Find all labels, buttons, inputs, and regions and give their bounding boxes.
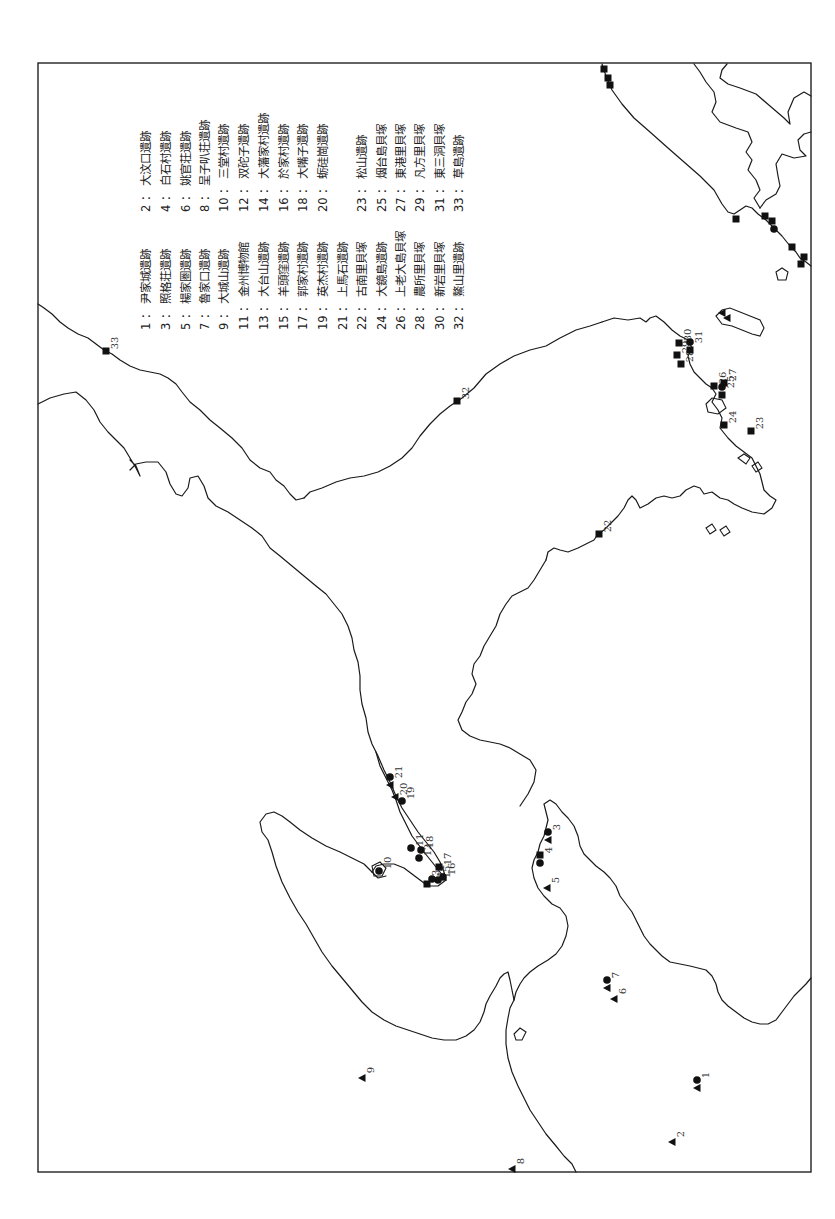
site-label-4: 4 [543, 847, 554, 853]
legend-entry-25: 25 ： 烟台島貝塚 [375, 123, 389, 212]
site-markers: 1234567891011121314151617181920212223242… [103, 66, 808, 1174]
site-label-18: 18 [424, 836, 435, 849]
site-label-31: 31 [693, 331, 704, 344]
site-label-17: 17 [442, 853, 453, 866]
coastline-liaodong-west [130, 462, 446, 880]
legend-entry-19: 19 ： 英杰村遺跡 [316, 241, 330, 330]
legend-entry-11: 11 ： 金州博物館 [237, 242, 251, 330]
site-label-2: 2 [675, 1131, 686, 1137]
legend-entry-9: 9 ： 大城山遺跡 [217, 248, 231, 330]
site-label-20: 20 [398, 783, 409, 796]
legend-entry-31: 31 ： 東三洞貝塚 [433, 123, 447, 212]
coastline-bohai-northwest [38, 392, 140, 476]
coastlines [38, 64, 811, 1172]
triangle-marker-icon [668, 1138, 676, 1146]
legend-entry-33: 33 ： 草島遺跡 [452, 134, 466, 212]
triangle-marker-icon [603, 984, 611, 992]
site-label-27: 27 [727, 369, 738, 382]
site-23: 23 [748, 417, 766, 435]
coastline-northeast [602, 64, 811, 266]
coastline-bohai-inner [260, 812, 514, 1040]
square-marker-icon [601, 66, 608, 73]
legend-entry-15: 15 ： 羊頭窪遺跡 [277, 241, 291, 330]
legend-entry-8: 8 ： 呈子叭荘遺跡 [198, 119, 212, 212]
site-1: 1 [693, 1072, 711, 1092]
island-cluster-4 [706, 524, 716, 534]
archaeological-site-map: 1 ： 尹家城遺跡2 ： 大汶口遺跡3 ： 照格荘遺跡4 ： 白石村遺跡5 ： … [0, 0, 835, 1219]
coastline-shandong-west [506, 1000, 576, 1172]
triangle-marker-icon [544, 836, 552, 844]
legend-entry-18: 18 ： 大嘴子遺跡 [296, 123, 310, 212]
legend-entry-4: 4 ： 白石村遺跡 [159, 130, 173, 212]
square-marker-icon [789, 244, 796, 251]
site-label-32: 32 [460, 387, 471, 400]
site-label-6: 6 [617, 988, 628, 994]
triangle-marker-icon [610, 995, 618, 1003]
coastline-bohai-north [38, 304, 304, 500]
circle-marker-icon [770, 225, 778, 233]
legend-entry-13: 13 ： 大台山遺跡 [257, 241, 271, 330]
legend-entry-32: 32 ： 鰲山里遺跡 [452, 241, 466, 330]
legend-entry-2: 2 ： 大汶口遺跡 [139, 130, 153, 212]
circle-marker-icon [536, 859, 544, 867]
coastline-shandong-north [514, 800, 811, 1024]
site-label-5: 5 [550, 877, 561, 883]
site-label-23: 23 [754, 417, 765, 430]
map-frame [38, 63, 811, 1172]
legend-entry-26: 26 ： 上老大島貝塚 [394, 230, 408, 330]
site-label-33: 33 [109, 337, 120, 350]
legend-entry-7: 7 ： 魯家口遺跡 [198, 248, 212, 330]
legend-entry-28: 28 ： 農所里貝塚 [413, 241, 427, 330]
site-5: 5 [543, 877, 561, 892]
site-label-3: 3 [551, 824, 562, 830]
legend-entry-17: 17 ： 郭家村遺跡 [296, 241, 310, 330]
square-marker-icon [801, 254, 808, 261]
square-marker-icon [719, 392, 726, 399]
legend-entry-3: 3 ： 照格荘遺跡 [159, 248, 173, 330]
legend-entry-24: 24 ： 大鏡島遺跡 [375, 241, 389, 330]
triangle-marker-icon [358, 1074, 366, 1082]
site-8: 8 [508, 1158, 526, 1173]
site-label-21: 21 [393, 766, 404, 779]
coastline-northeast-inland [694, 64, 760, 208]
site-label-10: 10 [382, 857, 393, 870]
square-marker-icon [762, 213, 769, 220]
legend: 1 ： 尹家城遺跡2 ： 大汶口遺跡3 ： 照格荘遺跡4 ： 白石村遺跡5 ： … [139, 112, 466, 330]
site-label-22: 22 [602, 520, 613, 533]
legend-entry-23: 23 ： 松山遺跡 [355, 134, 369, 212]
square-marker-icon [733, 216, 740, 223]
triangle-marker-icon [693, 1084, 701, 1092]
island-small-east [776, 268, 788, 280]
island-bohai-strait [514, 1028, 526, 1040]
legend-entry-30: 30 ： 新岩里貝塚 [433, 241, 447, 330]
site-9: 9 [358, 1067, 376, 1082]
square-marker-icon [798, 261, 805, 268]
legend-entry-14: 14 ： 大藩家村遺跡 [257, 112, 271, 212]
legend-entry-1: 1 ： 尹家城遺跡 [139, 248, 153, 330]
legend-entry-16: 16 ： 於家村遺跡 [277, 123, 291, 212]
site-2: 2 [668, 1131, 686, 1146]
legend-entry-27: 27 ： 東港里貝塚 [394, 123, 408, 212]
coastline-liaodong-east [304, 322, 602, 498]
site-22: 22 [596, 520, 614, 538]
coastline-northeast-bay [720, 64, 811, 124]
legend-entry-22: 22 ： 古南里貝塚 [355, 241, 369, 330]
island-cluster-5 [720, 526, 730, 536]
site-32: 32 [454, 387, 472, 405]
coastline-korea-west [546, 316, 776, 560]
legend-entry-12: 12 ： 双砣子遺跡 [237, 123, 251, 212]
square-marker-icon [769, 218, 776, 225]
site-24: 24 [721, 411, 739, 429]
legend-entry-29: 29 ： 凡方里貝塚 [413, 123, 427, 212]
site-label-24: 24 [727, 411, 738, 424]
site-label-1: 1 [700, 1072, 711, 1078]
legend-entry-21: 21 ： 上馬石遺跡 [336, 241, 350, 330]
triangle-marker-icon [543, 884, 551, 892]
square-marker-icon [607, 82, 614, 89]
legend-entry-5: 5 ： 楊家圏遺跡 [179, 248, 193, 330]
site-label-8: 8 [515, 1158, 526, 1164]
site-6: 6 [610, 988, 628, 1003]
square-marker-icon [687, 347, 694, 354]
legend-entry-10: 10 ： 三堂村遺跡 [217, 123, 231, 212]
site-label-7: 7 [610, 972, 621, 978]
